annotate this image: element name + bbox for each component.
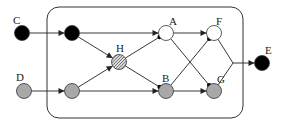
edge-B-G [174,88,207,94]
node-D-label: D [16,71,24,83]
node-d2-circle [65,84,80,99]
edge-B-F [171,37,212,86]
node-E: E [255,44,273,71]
edge-line [125,66,159,87]
arrowhead-icon [201,88,207,94]
diagram-canvas: CDHABFGE [0,0,287,123]
arrowhead-icon [106,66,113,72]
node-G: G [207,73,226,99]
node-A: A [159,15,178,41]
edge-line [78,37,112,58]
edge-A-F [174,30,207,36]
node-E-label: E [265,44,272,56]
arrowhead-icon [59,88,65,94]
node-H-circle [112,55,127,70]
node-H: H [112,42,127,70]
node-d2 [65,84,80,99]
nodes-layer: CDHABFGE [13,14,272,99]
edge-d2-H [78,66,112,87]
arrowhead-icon [249,60,255,66]
node-C-label: C [13,14,20,26]
edge-c2-H [78,37,112,58]
node-F-circle [207,26,222,41]
node-F-label: F [216,15,222,27]
node-G-label: G [217,73,225,85]
node-B-circle [159,84,174,99]
node-B: B [159,72,174,99]
node-H-label: H [116,42,124,54]
arrowhead-icon [153,30,159,36]
edge-A-G [171,39,212,88]
edge-line [218,39,233,63]
arrowhead-icon [201,30,207,36]
edge-line [78,66,112,87]
node-E-circle [255,56,270,71]
node-C-circle [15,26,30,41]
node-A-circle [159,26,174,41]
arrowhead-icon [59,30,65,36]
node-D-circle [17,84,32,99]
arrowhead-icon [106,52,113,58]
edge-H-A [125,35,161,58]
arrowhead-icon [153,88,159,94]
edge-c2-A [80,30,159,36]
node-c2-circle [65,26,80,41]
edge-d2-B [80,88,159,94]
node-D: D [16,71,32,99]
edge-line [125,37,159,58]
node-A-label: A [169,15,177,27]
node-F: F [207,15,223,41]
node-G-circle [207,84,222,99]
system-boundary-box [47,7,243,118]
edge-D-d2 [32,88,65,94]
node-c2 [65,26,80,41]
node-C: C [13,14,30,41]
edge-H-B [125,66,161,89]
node-B-label: B [162,72,169,84]
